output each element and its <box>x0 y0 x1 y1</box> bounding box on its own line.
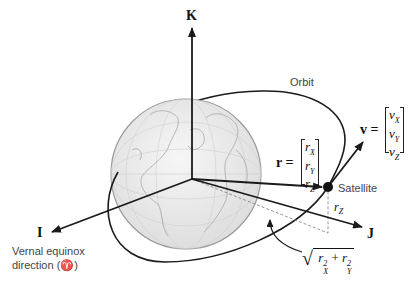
diagram-canvas <box>0 0 416 283</box>
sqrt-label: √ r2X + r2Y <box>302 247 354 276</box>
rz-label: rZ <box>334 200 343 216</box>
r-y: rY <box>305 159 315 178</box>
i-axis-label: I <box>37 225 42 241</box>
v-matrix: vX vY vZ <box>385 108 404 152</box>
r-matrix: rX rY rZ <box>301 140 319 184</box>
sqrt-pointer-arrow <box>270 220 302 252</box>
vernal-label-line2: direction (♈) <box>12 259 78 272</box>
r-z: rZ <box>305 177 315 196</box>
k-axis-label: K <box>186 8 197 24</box>
orbit-label: Orbit <box>290 76 314 88</box>
satellite-dot <box>323 182 333 192</box>
v-x: vX <box>389 108 400 127</box>
earth-globe <box>111 99 261 249</box>
r-equals: r = <box>276 155 293 171</box>
r-x: rX <box>305 140 315 159</box>
satellite-label: Satellite <box>338 182 377 194</box>
vernal-label-line1: Vernal equinox <box>12 245 85 257</box>
v-y: vY <box>389 127 400 146</box>
j-axis-label: J <box>367 226 374 242</box>
v-equals: v = <box>360 122 378 138</box>
v-z: vZ <box>389 145 400 164</box>
velocity-vector-v <box>328 142 363 187</box>
